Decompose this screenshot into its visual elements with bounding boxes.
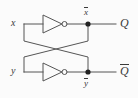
junction-dot-bottom — [85, 69, 90, 74]
inverter-bottom-bubble — [62, 70, 67, 75]
circuit-schematic-canvas — [0, 0, 138, 98]
wire-feedback-ybar-to-x — [24, 24, 88, 72]
inverter-top-bubble — [62, 22, 67, 27]
label-node-xbar-text: x — [84, 7, 88, 17]
inverter-top-triangle — [43, 15, 62, 33]
label-output-Q: Q — [120, 17, 129, 29]
label-node-xbar: x — [84, 7, 88, 17]
label-input-x-text: x — [11, 17, 15, 28]
label-input-x: x — [11, 18, 15, 28]
label-output-Q-text: Q — [120, 16, 129, 30]
label-output-Qbar-text: Q — [120, 64, 129, 77]
label-input-y: y — [11, 66, 15, 76]
junction-dot-top — [85, 21, 90, 26]
wire-feedback-xbar-to-y — [24, 24, 88, 72]
label-node-ybar: y — [84, 78, 88, 88]
label-input-y-text: y — [11, 65, 15, 76]
label-node-ybar-text: y — [84, 78, 88, 88]
label-output-Qbar: Q — [120, 64, 129, 77]
circuit-diagram: x y x y Q Q — [0, 0, 138, 98]
inverter-bottom-triangle — [43, 63, 62, 81]
